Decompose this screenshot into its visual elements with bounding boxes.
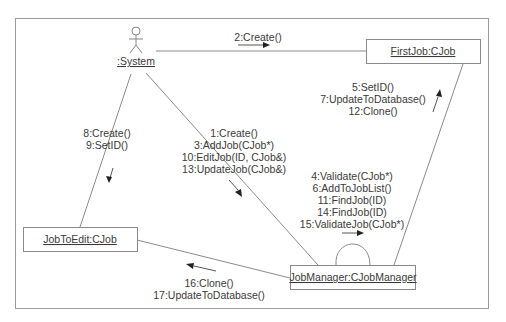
message-label: 10:EditJob(ID, CJob&) (182, 151, 286, 163)
message-label: 7:UpdateToDatabase() (320, 93, 426, 105)
object-jobtoedit: JobToEdit:CJob (24, 228, 138, 252)
message-label: 13:UpdateJob(CJob&) (182, 163, 286, 175)
object-jobmanager-label: JobManager:CJobManager (289, 271, 417, 283)
message-label: 11:FindJob(ID) (318, 194, 387, 206)
message-arrow-up-icon (433, 89, 442, 112)
message-label: 2:Create() (234, 31, 281, 43)
message-label: 4:Validate(CJob*) (311, 170, 393, 182)
message-arrow-right-icon (342, 230, 364, 236)
link-jobmanager-jobtoedit (137, 240, 290, 278)
message-label: 6:AddToJobList() (313, 182, 392, 194)
self-link-jobmanager (336, 244, 370, 265)
message-label: 16:Clone() (184, 277, 233, 289)
message-label: 3:AddJob(CJob*) (194, 139, 274, 151)
object-jobmanager: JobManager:CJobManager (289, 266, 417, 290)
actor-label: :System (117, 55, 155, 67)
message-label: 15:ValidateJob(CJob*) (300, 218, 404, 230)
message-arrow-left-icon (186, 263, 216, 271)
object-jobtoedit-label: JobToEdit:CJob (43, 233, 117, 245)
message-label: 9:SetID() (86, 139, 128, 151)
message-arrow-down-icon (106, 168, 113, 183)
actor-system: :System (117, 27, 155, 67)
stick-figure-actor-icon (129, 27, 143, 53)
message-label: 8:Create() (83, 127, 130, 139)
message-label: 5:SetID() (352, 81, 394, 93)
message-label: 1:Create() (210, 127, 257, 139)
object-firstjob: FirstJob:CJob (367, 40, 481, 64)
object-firstjob-label: FirstJob:CJob (391, 45, 456, 57)
collaboration-diagram: :System FirstJob:CJob JobToEdit:CJob Job… (0, 0, 506, 322)
message-label: 17:UpdateToDatabase() (153, 289, 265, 301)
message-label: 14:FindJob(ID) (317, 206, 386, 218)
message-arrow-diagonal-icon (229, 180, 242, 197)
message-label: 12:Clone() (348, 105, 397, 117)
